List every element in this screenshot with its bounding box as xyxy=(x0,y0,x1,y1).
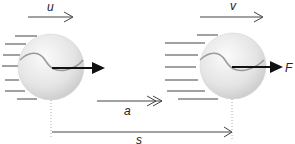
label-u: u xyxy=(47,0,54,14)
label-s: s xyxy=(136,133,142,144)
initial-velocity-arrow: u xyxy=(28,0,73,22)
physics-diagram: u v xyxy=(0,0,295,144)
displacement-arrow: s xyxy=(52,127,232,144)
label-a: a xyxy=(124,104,131,118)
label-v: v xyxy=(230,0,237,13)
label-F: F xyxy=(285,61,293,75)
final-velocity-arrow: v xyxy=(200,0,263,22)
acceleration-arrow: a xyxy=(97,96,162,118)
